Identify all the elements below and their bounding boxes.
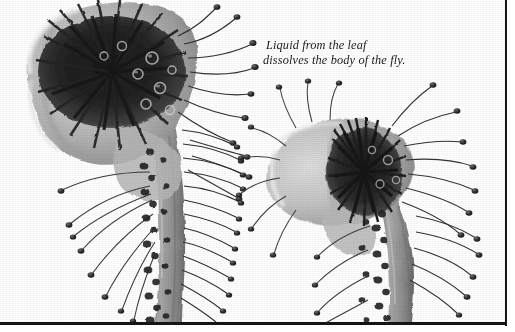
photograph-area: Liquid from the leaf dissolves the body … — [0, 0, 507, 324]
caption-line-2: dissolves the body of the fly. — [263, 53, 456, 68]
figure-plate: Liquid from the leaf dissolves the body … — [0, 0, 515, 332]
figure-caption: Liquid from the leaf dissolves the body … — [266, 38, 456, 68]
caption-line-1: Liquid from the leaf — [266, 38, 456, 53]
plate-border-right — [505, 0, 507, 326]
plate-border-bottom — [0, 322, 507, 325]
